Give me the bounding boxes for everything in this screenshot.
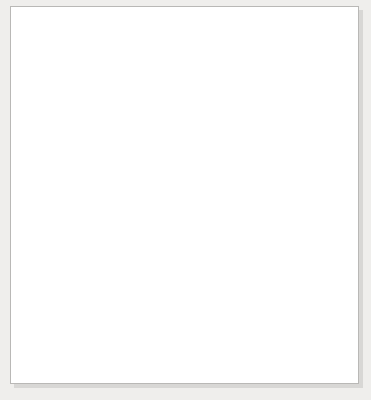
figure-panel [10,6,359,384]
